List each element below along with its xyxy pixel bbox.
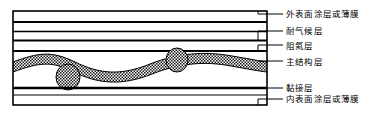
label-main-structural: 主结构层 bbox=[286, 57, 323, 67]
label-outer-coating: 外表面涂层或薄膜 bbox=[286, 9, 360, 19]
composite-layer-diagram: 外表面涂层或薄膜 耐气候层 阻氦层 主结构层 黏接层 内表面涂层或薄膜 bbox=[0, 0, 377, 116]
label-helium-barrier: 阻氦层 bbox=[286, 41, 314, 51]
label-adhesive: 黏接层 bbox=[286, 83, 314, 93]
yarn-cross-section-right bbox=[166, 48, 188, 72]
yarn-cross-section-left bbox=[56, 64, 80, 90]
label-inner-coating: 内表面涂层或薄膜 bbox=[286, 94, 360, 104]
label-weather-resistant: 耐气候层 bbox=[286, 26, 323, 36]
